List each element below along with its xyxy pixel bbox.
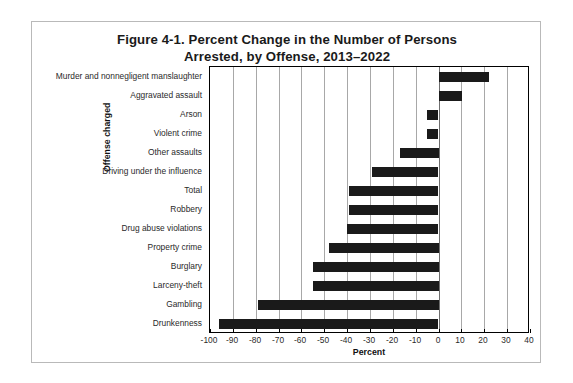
chart-title-line-2: Arrested, by Offense, 2013–2022: [32, 48, 542, 65]
tick-mark--100: [210, 329, 211, 333]
axis-tick-marks: [210, 67, 528, 332]
tick-mark--20: [393, 329, 394, 333]
y-axis-label: Burglary: [171, 261, 202, 271]
y-axis-label: Robbery: [170, 204, 202, 214]
tick-mark-20: [484, 329, 485, 333]
tick-mark--10: [416, 329, 417, 333]
tick-mark--70: [279, 329, 280, 333]
tick-mark--30: [370, 329, 371, 333]
x-axis-title: Percent: [209, 347, 529, 357]
y-axis-label: Total: [184, 185, 202, 195]
tick-mark--60: [301, 329, 302, 333]
tick-mark--40: [347, 329, 348, 333]
tick-mark--50: [324, 329, 325, 333]
y-axis-label: Gambling: [166, 299, 202, 309]
y-axis-label: Larceny-theft: [153, 280, 202, 290]
y-axis-label: Drunkenness: [153, 318, 202, 328]
y-axis-tick-labels: Murder and nonnegligent manslaughterAggr…: [32, 66, 206, 333]
y-axis-label: Property crime: [148, 242, 202, 252]
chart-title: Figure 4-1. Percent Change in the Number…: [32, 31, 542, 65]
tick-mark-30: [507, 329, 508, 333]
tick-mark--90: [233, 329, 234, 333]
tick-mark-0: [439, 329, 440, 333]
figure-container: Figure 4-1. Percent Change in the Number…: [31, 21, 541, 363]
y-axis-label: Driving under the influence: [102, 166, 202, 176]
y-axis-label: Other assaults: [148, 147, 202, 157]
x-axis-label: 40: [514, 335, 544, 346]
y-axis-label: Arson: [180, 109, 202, 119]
y-axis-label: Aggravated assault: [130, 90, 202, 100]
chart-title-line-1: Figure 4-1. Percent Change in the Number…: [32, 31, 542, 48]
plot-area: [209, 66, 529, 333]
y-axis-label: Murder and nonnegligent manslaughter: [56, 71, 202, 81]
y-axis-label: Violent crime: [154, 128, 202, 138]
y-axis-label: Drug abuse violations: [121, 223, 202, 233]
tick-mark--80: [256, 329, 257, 333]
tick-mark-10: [461, 329, 462, 333]
tick-mark-40: [530, 329, 531, 333]
